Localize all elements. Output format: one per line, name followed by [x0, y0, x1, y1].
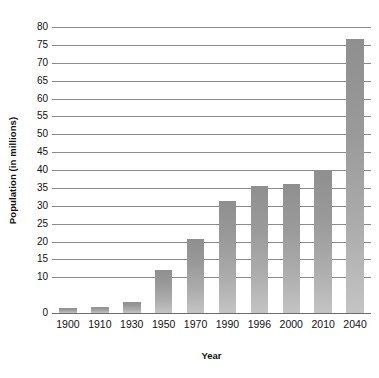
y-axis-tick-labels: 0101520253035404550556065707580 [4, 27, 48, 313]
y-tick-label: 65 [8, 76, 48, 86]
x-tick-label: 1900 [52, 318, 84, 331]
x-tick-label: 1996 [243, 318, 275, 331]
y-tick-label: 40 [8, 165, 48, 175]
x-tick-label: 1970 [180, 318, 212, 331]
x-axis-title: Year [52, 350, 371, 361]
x-tick-label: 1910 [84, 318, 116, 331]
plot-area [52, 27, 371, 313]
y-tick-label: 30 [8, 201, 48, 211]
x-tick-label: 2010 [307, 318, 339, 331]
y-tick-label: 70 [8, 58, 48, 68]
y-tick-label: 10 [8, 272, 48, 282]
x-tick-label: 1990 [212, 318, 244, 331]
y-tick-label: 45 [8, 147, 48, 157]
bar [219, 201, 237, 313]
x-tick-label: 1950 [148, 318, 180, 331]
y-tick-label: 75 [8, 40, 48, 50]
bar [91, 307, 109, 313]
x-axis-tick-labels: 1900191019301950197019901996200020102040 [52, 318, 371, 332]
bar [314, 170, 332, 313]
y-tick-label: 25 [8, 219, 48, 229]
bar [123, 302, 141, 313]
bar [187, 239, 205, 313]
bar [283, 184, 301, 313]
y-tick-label: 80 [8, 22, 48, 32]
y-tick-label: 0 [8, 308, 48, 318]
x-tick-label: 2000 [275, 318, 307, 331]
bar [59, 308, 77, 313]
x-tick-label: 2040 [339, 318, 371, 331]
bars-group [52, 27, 371, 313]
bar [251, 186, 269, 313]
bar-chart-figure: Population (in millions) 010152025303540… [0, 0, 379, 378]
y-tick-label: 50 [8, 129, 48, 139]
y-tick-label: 55 [8, 111, 48, 121]
bar [155, 270, 173, 313]
y-tick-label: 15 [8, 254, 48, 264]
gridline-0 [52, 313, 371, 314]
y-tick-label: 35 [8, 183, 48, 193]
x-tick-label: 1930 [116, 318, 148, 331]
y-tick-label: 60 [8, 94, 48, 104]
y-tick-label: 20 [8, 237, 48, 247]
bar [346, 39, 364, 313]
